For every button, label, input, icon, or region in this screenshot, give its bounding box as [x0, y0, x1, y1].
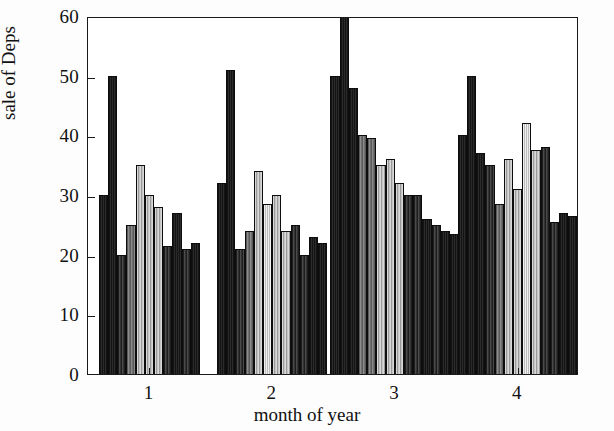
x-axis-tick-mark	[518, 368, 519, 374]
x-axis-tick-mark	[272, 368, 273, 374]
bar	[531, 150, 540, 374]
bar	[413, 195, 422, 374]
bar	[245, 231, 254, 374]
x-axis-tick-label: 2	[241, 382, 301, 404]
bar	[136, 165, 145, 374]
bar	[513, 189, 522, 374]
y-axis-tick-label: 0	[35, 365, 79, 384]
y-axis-tick-label: 10	[35, 305, 79, 324]
bar	[349, 88, 358, 374]
bar	[272, 195, 281, 374]
bar	[281, 231, 290, 374]
bar-chart: 0102030405060 sale of Deps 1234 month of…	[0, 0, 614, 431]
bar	[226, 70, 235, 374]
y-axis-tick-label: 50	[35, 67, 79, 86]
bar	[550, 222, 559, 374]
bar	[318, 243, 327, 374]
y-axis-tick-mark	[88, 78, 95, 79]
bar	[163, 246, 172, 374]
bar	[495, 204, 504, 374]
bar	[309, 237, 318, 374]
x-axis-tick-label: 4	[487, 382, 547, 404]
bar	[291, 225, 300, 374]
bar	[191, 243, 200, 374]
bar	[441, 231, 450, 374]
bar	[485, 165, 494, 374]
x-axis-tick-mark	[149, 368, 150, 374]
bar	[254, 171, 263, 374]
bar	[340, 17, 349, 374]
bar	[404, 195, 413, 374]
bar	[126, 225, 135, 374]
bar	[504, 159, 513, 374]
x-axis-tick-label: 3	[364, 382, 424, 404]
bar	[376, 165, 385, 374]
bar	[182, 249, 191, 374]
bar	[263, 204, 272, 374]
y-axis-tick-label: 30	[35, 186, 79, 205]
x-axis-title: month of year	[0, 404, 614, 426]
bar	[154, 207, 163, 374]
bar	[367, 138, 376, 374]
bar	[108, 76, 117, 374]
bar	[386, 159, 395, 374]
bar	[422, 219, 431, 374]
y-axis-tick-label: 40	[35, 126, 79, 145]
y-axis-tick-mark	[88, 257, 95, 258]
bar	[99, 195, 108, 374]
y-axis-title: sale of Deps	[0, 0, 20, 120]
y-axis-tick-label: 60	[35, 7, 79, 26]
plot-area	[87, 17, 578, 375]
bar	[330, 76, 339, 374]
bar	[541, 147, 550, 374]
y-axis-tick-mark	[88, 197, 95, 198]
bar	[117, 255, 126, 374]
bar	[522, 123, 531, 374]
bar	[467, 76, 476, 374]
x-axis-tick-label: 1	[118, 382, 178, 404]
bar	[568, 216, 577, 374]
bar	[172, 213, 181, 374]
y-axis-tick-mark	[88, 316, 95, 317]
y-axis-tick-label: 20	[35, 246, 79, 265]
bar	[432, 225, 441, 374]
bar	[358, 135, 367, 374]
bar	[235, 249, 244, 374]
bar	[145, 195, 154, 374]
bar	[300, 255, 309, 374]
bar	[476, 153, 485, 374]
bar	[395, 183, 404, 374]
y-axis-tick-mark	[88, 137, 95, 138]
bar	[217, 183, 226, 374]
bar	[458, 135, 467, 374]
bar	[559, 213, 568, 374]
x-axis-tick-mark	[395, 368, 396, 374]
